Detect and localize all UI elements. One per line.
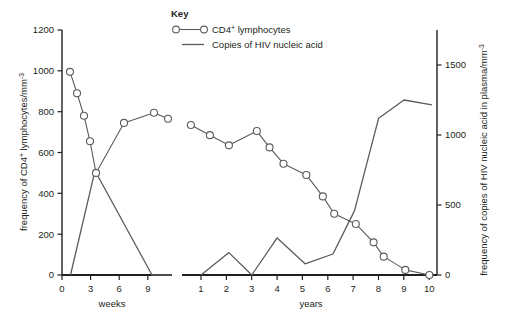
data-point-marker [87,138,94,145]
x-years-tick-4: 4 [274,283,279,294]
x-years-tick-8: 8 [376,283,381,294]
data-point-marker [187,121,194,128]
y-axis-left: 0 200 400 600 800 1000 1200 frequency of… [18,24,62,280]
x-years-tick-5: 5 [300,283,305,294]
x-weeks-tick-3: 3 [88,283,93,294]
x-weeks-tick-0: 0 [59,283,64,294]
data-point-marker [81,112,88,119]
series-line [70,72,168,173]
data-point-marker [67,68,74,75]
series-cd4-weeks [67,68,172,176]
series-line [71,171,173,275]
y-axis-right-title: frequency of copies of HIV nucleic acid … [478,44,489,276]
legend-label-cd4-rest: lymphocytes [235,24,291,35]
y-left-title-main: frequency of CD4 [18,157,29,231]
legend-item-hiv: Copies of HIV nucleic acid [182,39,323,50]
y-left-title-mid: lymphocytes/mm [18,79,29,153]
x-years-tick-6: 6 [325,283,330,294]
y-left-tick-0: 0 [49,269,54,280]
y-left-tick-600: 600 [38,147,54,158]
x-axis-weeks-title: weeks [98,298,126,309]
legend-label-cd4: CD4+ lymphocytes [212,24,291,35]
legend-label-cd4-main: CD4 [212,24,231,35]
data-point-marker [121,119,128,126]
y-left-tick-1000: 1000 [33,65,54,76]
data-point-marker [331,210,338,217]
legend: Key CD4+ lymphocytes Copies of HIV nucle… [171,8,323,50]
x-weeks-tick-6: 6 [117,283,122,294]
x-axis-years: 1 2 3 4 5 6 7 8 9 10 years [182,275,437,309]
x-years-tick-10: 10 [424,283,435,294]
y-left-tick-400: 400 [38,188,54,199]
y-right-title-main: frequency of copies of HIV nucleic acid … [478,50,489,276]
x-axis-years-title: years [299,298,322,309]
data-point-marker [225,142,232,149]
legend-label-hiv: Copies of HIV nucleic acid [212,39,323,50]
data-point-marker [151,109,158,116]
x-years-tick-9: 9 [401,283,406,294]
y-axis-left-title: frequency of CD4+ lymphocytes/mm-3 [18,73,29,231]
data-point-marker [280,160,287,167]
data-point-marker [93,169,100,176]
y-right-tick-500: 500 [445,199,461,210]
y-axis-right: 0 500 1000 1500 frequency of copies of H… [437,30,489,280]
legend-marker-right-circle-icon [201,26,208,33]
data-point-marker [352,220,359,227]
y-left-title-sup2: -3 [18,73,25,79]
data-point-marker [303,171,310,178]
data-point-marker [165,115,172,122]
data-point-marker [426,272,433,279]
x-years-tick-7: 7 [350,283,355,294]
y-right-tick-1000: 1000 [445,129,466,140]
chart-container: Key CD4+ lymphocytes Copies of HIV nucle… [0,0,505,322]
data-point-marker [319,193,326,200]
x-weeks-tick-9: 9 [145,283,150,294]
y-right-title-sup: -3 [478,44,485,50]
y-left-tick-1200: 1200 [33,24,54,35]
series-hiv-weeks [71,171,173,275]
x-axis-weeks: 0 3 6 9 weeks [59,275,172,309]
x-years-tick-2: 2 [224,283,229,294]
data-point-marker [74,90,81,97]
data-point-marker [206,132,213,139]
series-cd4-years [187,121,433,278]
x-years-tick-3: 3 [249,283,254,294]
y-right-tick-1500: 1500 [445,59,466,70]
y-left-tick-200: 200 [38,229,54,240]
data-point-marker [370,239,377,246]
hiv-cd4-line-chart: Key CD4+ lymphocytes Copies of HIV nucle… [0,0,505,322]
data-point-marker [402,266,409,273]
legend-title: Key [171,8,189,19]
y-left-tick-800: 800 [38,106,54,117]
x-years-tick-1: 1 [198,283,203,294]
legend-marker-left-circle-icon [173,26,180,33]
data-point-marker [266,144,273,151]
legend-item-cd4: CD4+ lymphocytes [173,24,291,35]
y-right-tick-0: 0 [445,269,450,280]
data-point-marker [253,128,260,135]
data-point-marker [380,253,387,260]
